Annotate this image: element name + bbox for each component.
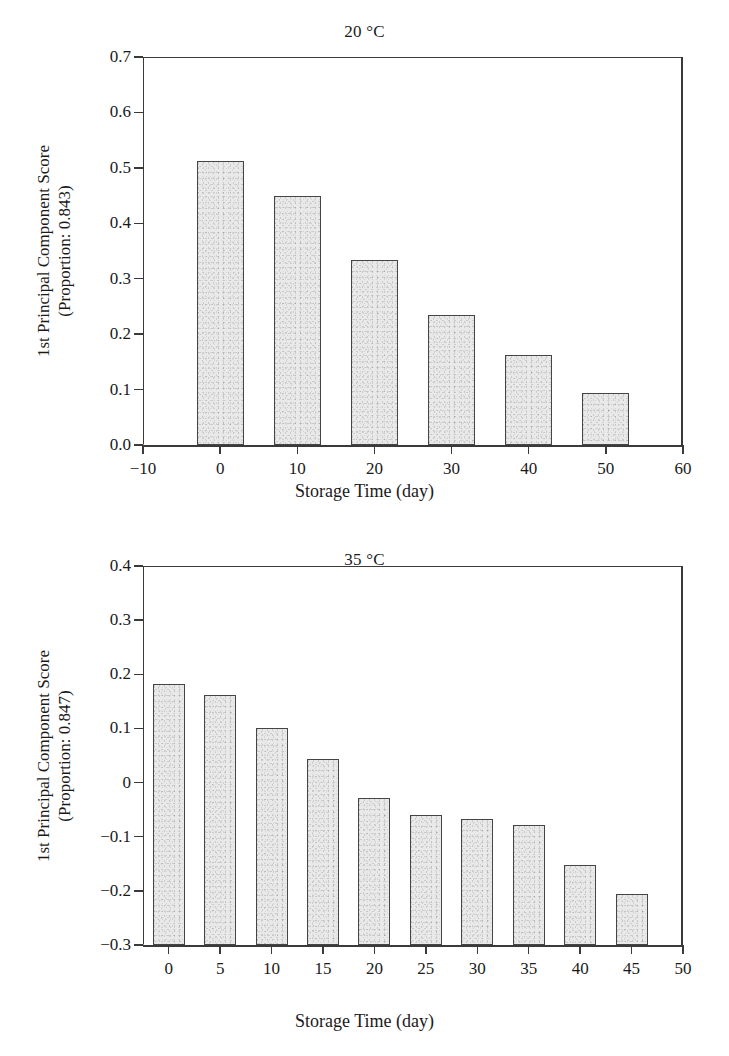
x-tick-label: 40 (572, 959, 589, 979)
bar (410, 815, 442, 945)
figure-root: 20 °C 0.70.60.50.40.30.20.10.0 −10010203… (0, 0, 729, 1056)
x-axis-line (143, 945, 683, 947)
y-tick-mark (134, 389, 143, 391)
y-tick-label: 0.4 (77, 556, 131, 576)
bar (256, 728, 288, 945)
y-tick-label: 0.0 (77, 435, 131, 455)
bar (358, 798, 390, 945)
y-tick-mark (134, 333, 143, 335)
x-tick-label: 50 (597, 459, 614, 479)
x-tick-label: 30 (469, 959, 486, 979)
bar (204, 695, 236, 945)
x-tick-label: 5 (216, 959, 225, 979)
bar (513, 825, 545, 945)
bar (428, 315, 475, 445)
x-tick-label: 10 (289, 459, 306, 479)
x-axis-line (143, 445, 683, 447)
x-tick-label: 35 (520, 959, 537, 979)
x-tick-label: 10 (263, 959, 280, 979)
x-axis-title-20c: Storage Time (day) (0, 481, 729, 502)
bar (461, 819, 493, 945)
y-tick-mark (134, 944, 143, 946)
x-tick-label: 45 (623, 959, 640, 979)
chart-panel-35c: 35 °C 0.40.30.20.10−0.1−0.2−0.3 05101520… (0, 528, 729, 1056)
bar (307, 759, 339, 945)
panel-title-20c: 20 °C (0, 22, 729, 42)
bar (153, 684, 185, 945)
x-tick-label: 20 (366, 459, 383, 479)
x-tick-label: 30 (443, 459, 460, 479)
y-tick-label: −0.1 (77, 827, 131, 847)
x-tick-label: 50 (675, 959, 692, 979)
chart-panel-20c: 20 °C 0.70.60.50.40.30.20.10.0 −10010203… (0, 0, 729, 528)
y-tick-label: 0 (77, 773, 131, 793)
y-tick-mark (134, 167, 143, 169)
y-tick-label: 0.7 (77, 47, 131, 67)
plot-right-edge (681, 57, 683, 445)
y-tick-label: −0.3 (77, 935, 131, 955)
x-axis-title-35c: Storage Time (day) (0, 1011, 729, 1032)
y-tick-mark (134, 890, 143, 892)
y-tick-label: 0.2 (77, 664, 131, 684)
y-tick-mark (134, 112, 143, 114)
x-tick-label: 40 (520, 459, 537, 479)
y-tick-mark (134, 619, 143, 621)
y-axis-title-20c: 1st Principal Component Score (Proportio… (34, 145, 75, 357)
y-tick-mark (134, 782, 143, 784)
x-tick-label: 25 (417, 959, 434, 979)
y-tick-label: 0.3 (77, 610, 131, 630)
y-axis-title-line1: 1st Principal Component Score (34, 145, 53, 357)
bar (616, 894, 648, 945)
plot-right-edge (681, 566, 683, 945)
y-tick-mark (134, 223, 143, 225)
x-tick-label: 60 (675, 459, 692, 479)
y-axis-title-35c: 1st Principal Component Score (Proportio… (34, 649, 75, 861)
y-tick-label: 0.5 (77, 158, 131, 178)
bar (582, 393, 629, 445)
bar (351, 260, 398, 445)
bar (197, 161, 244, 445)
x-tick-label: 15 (315, 959, 332, 979)
y-tick-mark (134, 728, 143, 730)
y-tick-mark (134, 565, 143, 567)
y-tick-label: 0.1 (77, 718, 131, 738)
y-tick-mark (134, 674, 143, 676)
y-tick-label: −0.2 (77, 881, 131, 901)
y-axis-title-line2: (Proportion: 0.847) (55, 649, 76, 861)
bar (505, 355, 552, 445)
y-tick-label: 0.2 (77, 324, 131, 344)
bar (274, 196, 321, 445)
x-tick-label: 0 (164, 959, 173, 979)
y-tick-label: 0.3 (77, 269, 131, 289)
y-tick-mark (134, 836, 143, 838)
y-tick-label: 0.4 (77, 213, 131, 233)
y-tick-label: 0.1 (77, 380, 131, 400)
x-tick-label: 20 (366, 959, 383, 979)
y-tick-mark (134, 278, 143, 280)
y-tick-mark (134, 56, 143, 58)
y-tick-label: 0.6 (77, 102, 131, 122)
x-tick-label: −10 (130, 459, 157, 479)
y-axis-title-line2: (Proportion: 0.843) (55, 145, 76, 357)
bar (564, 865, 596, 945)
y-axis-title-line1: 1st Principal Component Score (34, 649, 53, 861)
x-tick-label: 0 (216, 459, 225, 479)
